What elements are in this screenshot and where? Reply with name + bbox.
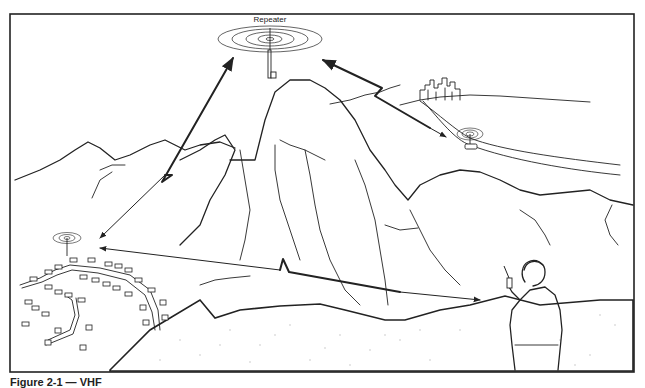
figure-caption: Figure 2-1 — VHF — [10, 377, 102, 388]
repeater-label: Repeater — [254, 15, 287, 24]
